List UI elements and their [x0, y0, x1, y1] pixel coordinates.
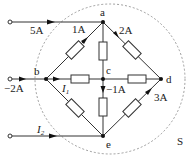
node-e: e	[106, 138, 111, 150]
label-1a: 1A	[72, 23, 86, 35]
node-c: c	[106, 64, 111, 76]
label-minus-2a: −2A	[4, 82, 24, 94]
terminal-middle	[8, 77, 12, 81]
node-d: d	[166, 73, 172, 85]
circuit-diagram: 5A 1A 2A a b c d e −2A I1 −1A 3A I2 S	[0, 0, 188, 166]
terminal-top	[8, 20, 12, 24]
terminal-bottom	[8, 134, 12, 138]
node-a: a	[100, 6, 105, 18]
label-s: S	[177, 135, 183, 147]
label-3a: 3A	[154, 91, 168, 103]
label-i2: I2	[36, 123, 45, 137]
label-i1: I1	[61, 82, 69, 96]
label-5a: 5A	[30, 24, 44, 36]
label-minus-1a: −1A	[106, 83, 126, 95]
node-b: b	[34, 65, 40, 77]
label-2a: 2A	[119, 24, 133, 36]
